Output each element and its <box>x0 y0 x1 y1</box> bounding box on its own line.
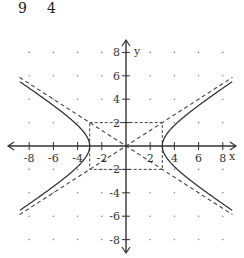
grid-dot <box>101 215 103 217</box>
grid-dot <box>53 239 55 241</box>
grid-dot <box>53 98 55 100</box>
x-tick-label: 2 <box>147 152 154 165</box>
grid-dot <box>198 239 200 241</box>
grid-dot <box>77 52 79 54</box>
grid-dot <box>222 215 224 217</box>
y-tick-label: -8 <box>109 234 120 247</box>
grid-dot <box>174 52 176 54</box>
grid-dot <box>77 122 79 124</box>
grid-dot <box>28 215 30 217</box>
grid-dot <box>77 192 79 194</box>
grid-dot <box>174 122 176 124</box>
grid-dot <box>149 192 151 194</box>
grid-dot <box>77 169 79 171</box>
x-axis-label: x <box>229 150 236 163</box>
grid-dot <box>53 169 55 171</box>
grid-dot <box>77 215 79 217</box>
grid-dot <box>222 192 224 194</box>
grid-dot <box>101 52 103 54</box>
x-tick-label: 4 <box>171 152 178 165</box>
y-tick-label: -4 <box>109 187 120 200</box>
y-tick-label: 8 <box>113 46 120 59</box>
grid-dot <box>149 98 151 100</box>
grid-dot <box>149 215 151 217</box>
x-tick-label: 8 <box>219 152 226 165</box>
y-tick-label: -2 <box>109 163 120 176</box>
grid-dot <box>222 239 224 241</box>
grid-dot <box>149 52 151 54</box>
grid-dot <box>77 98 79 100</box>
grid-dot <box>174 75 176 77</box>
grid-dot <box>77 75 79 77</box>
x-tick-label: -8 <box>24 152 35 165</box>
grid-dot <box>198 215 200 217</box>
y-axis-label: y <box>133 45 141 58</box>
grid-dot <box>53 52 55 54</box>
grid-dot <box>174 98 176 100</box>
grid-dot <box>101 192 103 194</box>
x-tick-label: -2 <box>96 152 107 165</box>
grid-dot <box>198 169 200 171</box>
grid-dot <box>101 239 103 241</box>
grid-dot <box>28 169 30 171</box>
y-tick-label: 2 <box>113 117 120 130</box>
x-tick-label: 6 <box>195 152 202 165</box>
grid-dot <box>174 192 176 194</box>
grid-dot <box>28 192 30 194</box>
grid-dot <box>174 169 176 171</box>
grid-dot <box>28 75 30 77</box>
grid-dot <box>222 98 224 100</box>
grid-dot <box>101 98 103 100</box>
grid-dot <box>149 75 151 77</box>
y-tick-label: 4 <box>113 93 120 106</box>
grid-dot <box>198 75 200 77</box>
grid-dot <box>53 75 55 77</box>
x-tick-label: -6 <box>48 152 59 165</box>
grid-dot <box>198 122 200 124</box>
grid-dot <box>53 122 55 124</box>
grid-dot <box>28 98 30 100</box>
grid-dot <box>174 239 176 241</box>
grid-dot <box>149 239 151 241</box>
grid-dot <box>28 122 30 124</box>
grid-dot <box>222 122 224 124</box>
hyperbola-graph: -8-6-4-22468-8-6-4-22468xy <box>0 0 244 258</box>
grid-dot <box>53 215 55 217</box>
grid-dot <box>222 52 224 54</box>
grid-dot <box>77 239 79 241</box>
x-tick-label: -4 <box>72 152 83 165</box>
grid-dot <box>198 52 200 54</box>
grid-dot <box>174 215 176 217</box>
y-tick-label: -6 <box>109 210 120 223</box>
grid-dot <box>28 52 30 54</box>
grid-dot <box>101 75 103 77</box>
grid-dot <box>53 192 55 194</box>
grid-dot <box>28 239 30 241</box>
grid-dot <box>222 75 224 77</box>
y-tick-label: 6 <box>113 70 120 83</box>
grid-dot <box>222 169 224 171</box>
